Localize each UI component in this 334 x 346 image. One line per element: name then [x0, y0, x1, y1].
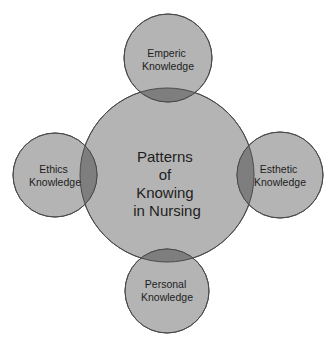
personal-label-line-2: Knowledge — [141, 291, 193, 303]
emperic-label-line-2: Knowledge — [142, 60, 194, 72]
patterns-of-knowing-diagram: Patterns of Knowing in Nursing Emperic K… — [0, 0, 334, 346]
esthetic-label-line-2: Knowledge — [254, 176, 306, 188]
center-label: Patterns of Knowing in Nursing — [133, 148, 201, 219]
ethics-label-line-2: Knowledge — [29, 176, 81, 188]
center-label-line-3: Knowing — [136, 184, 194, 201]
emperic-label-line-1: Emperic — [147, 47, 186, 59]
center-label-line-2: of — [159, 166, 172, 183]
personal-label-line-1: Personal — [145, 278, 186, 290]
esthetic-label-line-1: Esthetic — [260, 163, 297, 175]
personal-knowledge-label: Personal Knowledge — [141, 278, 193, 303]
emperic-knowledge-label: Emperic Knowledge — [142, 47, 194, 72]
esthetic-knowledge-label: Esthetic Knowledge — [254, 163, 306, 188]
ethics-label-line-1: Ethics — [39, 163, 68, 175]
center-label-line-4: in Nursing — [133, 202, 201, 219]
center-label-line-1: Patterns — [137, 148, 193, 165]
